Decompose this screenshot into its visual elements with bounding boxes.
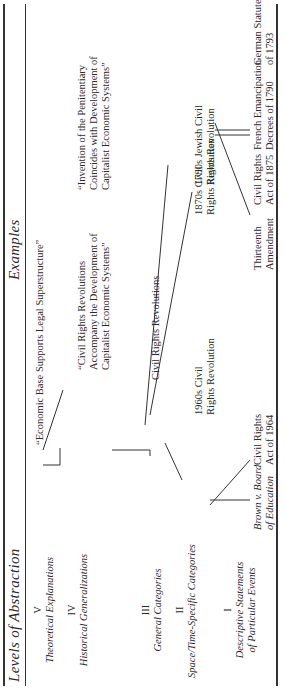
generalization-2-line2: Coincides with Development of (88, 56, 100, 190)
event-cra1964-line1: Civil Rights (252, 414, 264, 465)
event-brown-line1: Brown v. Board (252, 465, 264, 530)
specific-1960s-line2: Rights Revolution (205, 338, 217, 415)
event-german-line1: German Statutes (252, 0, 264, 65)
specific-1790s-line2: Rights Revolution (205, 108, 217, 185)
event-thirteenth-line2: Amendment (264, 218, 276, 270)
generalization-1-line2: Accompany the Development of (88, 233, 100, 370)
rotated-table-page: Levels of Abstraction Examples V Theoret… (0, 0, 286, 690)
generalization-2-line3: Capitalist Economic Systems” (100, 62, 112, 190)
event-cra1964-line2: Act of 1964 (264, 415, 276, 465)
event-french-line1: French Emancipation (252, 60, 264, 150)
event-cra1875-line1: Civil Rights (252, 154, 264, 205)
event-thirteenth-line1: Thirteenth (252, 226, 264, 270)
generalization-1-line3: Capitalist Economic Systems” (100, 242, 112, 370)
specific-1960s-line1: 1960s Civil (193, 366, 205, 415)
category-example: Civil Rights Revolutions (150, 276, 162, 380)
event-cra1875-line2: Act of 1875 (264, 155, 276, 205)
generalization-2-line1: “Invention of the Penitentiary (76, 65, 88, 190)
theory-example: “Economic Base Supports Legal Superstruc… (34, 240, 46, 445)
generalization-1-line1: “Civil Rights Revolutions (76, 261, 88, 370)
event-german-line2: of 1793 (264, 33, 276, 65)
event-french-line2: Decrees of 1790 (264, 81, 276, 150)
specific-1790s-line1: 1790s Jewish Civil (193, 105, 205, 185)
event-brown-line2: of Education (264, 476, 276, 530)
